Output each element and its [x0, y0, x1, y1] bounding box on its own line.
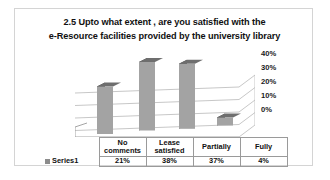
value-cell-partially: 37% — [193, 157, 240, 167]
chart-title: 2.5 Upto what extent , are you satisfied… — [15, 15, 314, 43]
value-cell-fully: 4% — [240, 157, 287, 167]
chart-container: 2.5 Upto what extent , are you satisfied… — [14, 8, 313, 166]
y-axis: 40% 30% 20% 10% 0% — [261, 49, 301, 141]
chart-title-line-1: 2.5 Upto what extent , are you satisfied… — [15, 15, 314, 29]
depth-edges — [239, 75, 255, 137]
table-corner-cell — [43, 138, 99, 157]
bar-partially — [179, 60, 203, 129]
data-table: No comments Lease satisfied Partially Fu… — [43, 137, 288, 167]
plot-area — [75, 53, 255, 137]
y-tick-label-10: 10% — [261, 91, 276, 100]
y-tick-label-30: 30% — [261, 63, 276, 72]
category-label-line-2: comments — [104, 146, 141, 155]
bar-no-comments — [97, 83, 121, 135]
category-header-fully: Fully — [240, 138, 287, 157]
value-cell-lease-satisfied: 38% — [146, 157, 193, 167]
bar-lease-satisfied — [139, 58, 163, 131]
category-label-line-2: satisfied — [155, 146, 185, 155]
chart-title-line-2: e-Resource facilities provided by the un… — [15, 29, 314, 43]
category-header-lease-satisfied: Lease satisfied — [146, 138, 193, 157]
y-tick-label-20: 20% — [261, 77, 276, 86]
value-cell-no-comments: 21% — [99, 157, 146, 167]
y-tick-label-0: 0% — [261, 105, 272, 114]
table-row-series1: Series1 21% 38% 37% 4% — [43, 157, 287, 167]
legend-entry-series1: Series1 — [43, 157, 99, 167]
bar-chart-svg — [75, 53, 255, 137]
legend-swatch-icon — [45, 159, 50, 164]
legend-label: Series1 — [52, 156, 78, 165]
category-header-partially: Partially — [193, 138, 240, 157]
bar-fully — [217, 114, 241, 126]
category-header-no-comments: No comments — [99, 138, 146, 157]
category-label-line-1: Fully — [255, 142, 272, 151]
table-row-headers: No comments Lease satisfied Partially Fu… — [43, 138, 287, 157]
y-tick-label-40: 40% — [261, 49, 276, 58]
category-label-line-1: Partially — [202, 142, 231, 151]
